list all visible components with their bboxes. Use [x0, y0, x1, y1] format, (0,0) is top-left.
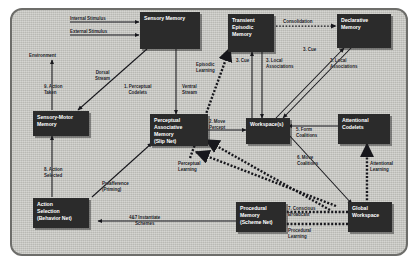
node-action-selection-line2: Selection	[37, 208, 86, 215]
label-move-percept: 2. Move Percept	[209, 119, 225, 131]
node-declarative-memory[interactable]: Declarative Memory	[337, 14, 391, 48]
node-procedural-memory-line2: Memory	[240, 212, 283, 219]
node-action-selection-line3: (Behavior Net)	[37, 215, 86, 222]
label-episodic-learning: Episodic Learning	[196, 62, 215, 74]
node-transient-episodic-memory-line2: Episodic	[232, 24, 271, 31]
node-sensory-motor-memory-line1: Sensory-Motor	[37, 114, 86, 121]
node-procedural-memory-line3: (Scheme Net)	[240, 219, 283, 226]
label-form-coalitions: 5. Form Coalitions	[296, 127, 317, 139]
edge-move-coalitions	[288, 134, 352, 204]
node-transient-episodic-memory-line3: Memory	[232, 31, 271, 38]
node-perceptual-associative-memory-line1: Perceptual	[154, 117, 205, 124]
node-attentional-codelets-line2: Codelets	[342, 124, 387, 131]
label-action-selected: 8. Action Selected	[44, 167, 62, 179]
node-global-workspace-line2: Workspace	[352, 212, 389, 219]
label-instantiate-schemes: 4&7 Instantiate Schemes	[129, 215, 160, 227]
label-conscious-broadcast: 7. Conscious Broadcast	[288, 206, 315, 218]
node-workspace[interactable]: Workspace(s)	[246, 118, 290, 144]
label-preafference: Preafference (Priming)	[102, 181, 129, 193]
node-declarative-memory-line1: Declarative	[341, 17, 388, 24]
node-global-workspace-line1: Global	[352, 205, 389, 212]
label-cue-declarative: 3. Cue	[303, 47, 316, 53]
label-external-stimulus: External Stimulus	[70, 29, 107, 35]
node-sensory-motor-memory[interactable]: Sensory-Motor Memory	[33, 111, 89, 136]
node-sensory-memory-label: Sensory Memory	[144, 15, 197, 22]
label-perceptual-codelets: 1. Perceptual Codelets	[124, 84, 151, 96]
label-procedural-learning: Procedural Learning	[288, 228, 311, 240]
label-internal-stimulus: Internal Stimulus	[70, 16, 106, 22]
node-perceptual-associative-memory[interactable]: Perceptual Associative Memory (Slip Net)	[150, 114, 208, 146]
label-consolidation: Consolidation	[283, 19, 312, 25]
node-procedural-memory-line1: Procedural	[240, 205, 283, 212]
node-transient-episodic-memory-line1: Transient	[232, 17, 271, 24]
node-perceptual-associative-memory-line4: (Slip Net)	[154, 138, 205, 145]
label-action-taken: 9. Action Taken	[44, 84, 62, 96]
label-local-associations-declarative: 3. Local Associations	[330, 58, 357, 70]
label-perceptual-learning: Perceptual Learning	[178, 161, 201, 173]
node-declarative-memory-line2: Memory	[341, 24, 388, 31]
node-sensory-motor-memory-line2: Memory	[37, 121, 86, 128]
label-local-associations-transient: 3. Local Associations	[266, 58, 293, 70]
node-transient-episodic-memory[interactable]: Transient Episodic Memory	[228, 14, 274, 52]
label-ventral-stream: Ventral Stream	[182, 84, 197, 96]
edge-dorsal-stream	[78, 49, 147, 110]
label-attentional-learning: Attentional Learning	[370, 161, 393, 173]
edge-perceptual-learning	[206, 140, 330, 210]
node-global-workspace[interactable]: Global Workspace	[348, 202, 392, 232]
label-cue-transient: 3. Cue	[236, 58, 249, 64]
node-perceptual-associative-memory-line2: Associative	[154, 124, 205, 131]
node-action-selection-line1: Action	[37, 201, 86, 208]
label-move-coalitions: 6. Move Coalitions	[297, 155, 318, 167]
node-action-selection[interactable]: Action Selection (Behavior Net)	[33, 198, 89, 228]
label-dorsal-stream: Dorsal Stream	[95, 70, 110, 82]
node-attentional-codelets-line1: Attentional	[342, 117, 387, 124]
diagram-canvas: Sensory Memory Transient Episodic Memory…	[0, 0, 420, 266]
node-perceptual-associative-memory-line3: Memory	[154, 131, 205, 138]
node-sensory-memory[interactable]: Sensory Memory	[140, 12, 200, 49]
node-workspace-label: Workspace(s)	[250, 121, 287, 128]
node-attentional-codelets[interactable]: Attentional Codelets	[338, 114, 390, 144]
label-environment: Environment	[29, 53, 56, 59]
node-procedural-memory[interactable]: Procedural Memory (Scheme Net)	[236, 202, 286, 232]
